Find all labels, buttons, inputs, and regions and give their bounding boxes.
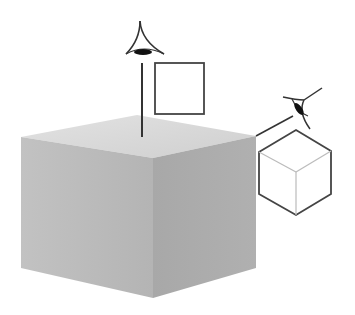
isometric-cube-outline: [259, 130, 331, 215]
cube-left-face: [21, 137, 153, 298]
corner-eye-icon: [283, 88, 322, 129]
corner-sight-line: [256, 116, 293, 136]
top-view-square: [155, 63, 204, 114]
top-eye-icon: [126, 21, 164, 55]
solid-cube: [21, 115, 256, 298]
diagram-canvas: [0, 0, 355, 315]
cube-right-face: [153, 136, 256, 298]
